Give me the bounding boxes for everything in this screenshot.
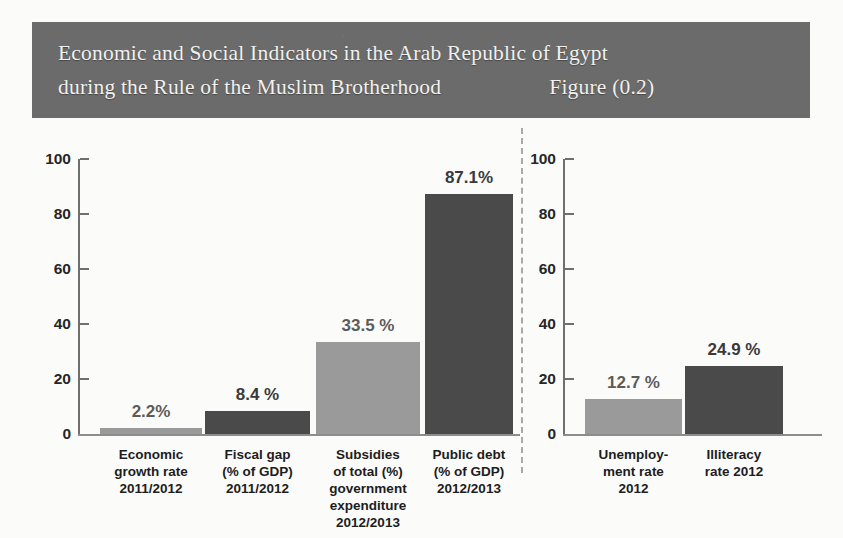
y-axis-tick-label: 100 [37, 151, 71, 167]
y-axis-tick-label: 40 [37, 316, 71, 332]
y-axis-tick [565, 158, 574, 160]
y-axis-tick [80, 323, 89, 325]
bar-value-label: 33.5 % [316, 316, 420, 336]
x-axis-category-label: Illiteracy rate 2012 [676, 446, 792, 480]
y-axis-tick [80, 378, 89, 380]
x-axis-category-label: Fiscal gap (% of GDP) 2011/2012 [196, 446, 319, 497]
y-axis-tick [80, 213, 89, 215]
chart-panel-right: 02040608010012.7 %Unemploy- ment rate 20… [522, 118, 843, 538]
bar[interactable] [685, 366, 783, 434]
figure-title-line-1: Economic and Social Indicators in the Ar… [58, 36, 784, 70]
panel-divider [521, 128, 523, 473]
y-axis-tick [565, 268, 574, 270]
x-axis-category-label: Subsidies of total (%) government expend… [307, 446, 429, 531]
y-axis-tick-label: 60 [37, 261, 71, 277]
y-axis-line [563, 159, 565, 436]
y-axis-tick [80, 158, 89, 160]
x-axis-category-label: Public debt (% of GDP) 2012/2013 [416, 446, 522, 497]
x-axis-line [563, 434, 822, 436]
y-axis-tick-label: 40 [522, 316, 556, 332]
bar[interactable] [585, 399, 682, 434]
y-axis-tick-label: 80 [37, 206, 71, 222]
y-axis-tick [565, 323, 574, 325]
y-axis-tick [80, 268, 89, 270]
y-axis-line [78, 159, 80, 436]
x-axis-line [78, 434, 520, 436]
x-axis-category-label: Unemploy- ment rate 2012 [576, 446, 691, 497]
y-axis-tick-label: 0 [37, 426, 71, 442]
bar-value-label: 2.2% [100, 402, 202, 422]
y-axis-tick-label: 100 [522, 151, 556, 167]
bar[interactable] [316, 342, 420, 434]
bar[interactable] [100, 428, 202, 434]
chart-panel-left: 0204060801002.2%Economic growth rate 201… [0, 118, 522, 538]
figure-title-banner: Economic and Social Indicators in the Ar… [32, 22, 810, 118]
y-axis-tick-label: 20 [522, 371, 556, 387]
x-axis-category-label: Economic growth rate 2011/2012 [91, 446, 211, 497]
bar[interactable] [425, 194, 513, 434]
y-axis-tick-label: 20 [37, 371, 71, 387]
bar[interactable] [205, 411, 310, 434]
bar-value-label: 12.7 % [585, 373, 682, 393]
y-axis-tick [565, 213, 574, 215]
y-axis-tick-label: 0 [522, 426, 556, 442]
figure-title-line-2: during the Rule of the Muslim Brotherhoo… [58, 70, 784, 104]
bar-value-label: 24.9 % [685, 340, 783, 360]
figure-number-label: Figure (0.2) [549, 70, 654, 104]
y-axis-tick-label: 60 [522, 261, 556, 277]
charts-container: 0204060801002.2%Economic growth rate 201… [0, 118, 843, 538]
figure-title-line-2-text: during the Rule of the Muslim Brotherhoo… [58, 70, 441, 104]
bar-value-label: 8.4 % [205, 385, 310, 405]
bar-value-label: 87.1% [425, 168, 513, 188]
y-axis-tick-label: 80 [522, 206, 556, 222]
y-axis-tick [565, 378, 574, 380]
